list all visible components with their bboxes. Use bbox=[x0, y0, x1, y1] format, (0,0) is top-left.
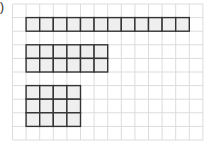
rectangle-2x6 bbox=[26, 45, 108, 72]
rectangle-3x4 bbox=[26, 86, 80, 127]
rectangle-1x12 bbox=[26, 18, 189, 32]
grid-diagram bbox=[0, 0, 208, 147]
